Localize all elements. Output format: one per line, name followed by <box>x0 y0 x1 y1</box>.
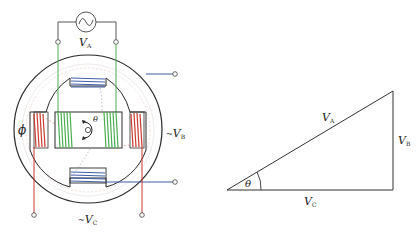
label-triangle-vc: VC <box>304 196 317 208</box>
terminal-vb-top <box>173 72 178 77</box>
terminal-va-right <box>114 40 119 45</box>
terminal-va-left <box>56 40 61 45</box>
label-vb: ~VB <box>166 128 185 140</box>
angle-arc <box>257 172 261 190</box>
label-va: VA <box>79 37 91 49</box>
label-triangle-theta: θ <box>245 179 251 189</box>
label-triangle-vb: VB <box>398 135 410 147</box>
terminal-vb-bottom <box>173 180 178 185</box>
label-triangle-va: VA <box>322 112 334 124</box>
stator-coil-left <box>34 113 45 147</box>
voltage-triangle <box>227 91 393 190</box>
diagram-svg <box>0 0 418 236</box>
terminal-vc-left <box>32 213 37 218</box>
label-phi: ϕ <box>18 124 26 136</box>
stator-coil-bottom <box>71 172 105 182</box>
terminal-vc-right <box>140 213 145 218</box>
label-theta-rotor: θ <box>93 116 98 124</box>
triangle-hypotenuse <box>227 91 393 190</box>
diagram-stage: VA ϕ θ ~VB ~VC VA VB VC θ <box>0 0 418 236</box>
stator-coil-right <box>131 113 142 147</box>
label-vc: ~VC <box>78 214 97 226</box>
